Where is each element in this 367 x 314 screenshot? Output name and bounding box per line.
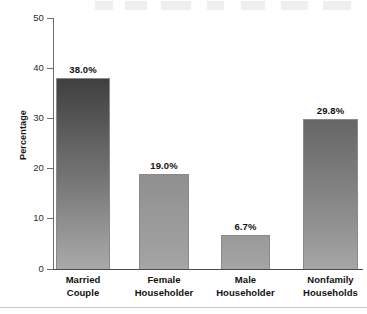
y-axis-tick-label: 20	[18, 162, 44, 173]
footer-rule	[0, 307, 367, 308]
bar-value-label: 19.0%	[134, 160, 194, 171]
y-axis-tick-label: 10	[18, 212, 44, 223]
bar-value-label: 6.7%	[216, 221, 276, 232]
bar-married-couple	[56, 78, 110, 269]
x-axis-category-label: MarriedCouple	[38, 274, 128, 299]
category-label-line: Householder	[119, 287, 209, 300]
y-axis-tick	[47, 269, 53, 270]
y-axis-tick	[47, 18, 53, 19]
y-axis-tick-label: 40	[18, 62, 44, 73]
x-axis-category-label: FemaleHouseholder	[119, 274, 209, 299]
category-label-line: Householder	[201, 287, 291, 300]
x-axis-category-label: MaleHouseholder	[201, 274, 291, 299]
category-label-line: Married	[38, 274, 128, 287]
scan-artifact	[95, 1, 360, 10]
bar-value-label: 38.0%	[53, 64, 113, 75]
y-axis-tick	[47, 218, 53, 219]
bar-female-householder	[139, 174, 189, 269]
category-label-line: Nonfamily	[286, 274, 367, 287]
y-axis-tick-label: 0	[18, 263, 44, 274]
y-axis-tick-label: 30	[18, 112, 44, 123]
bar-value-label: 29.8%	[301, 105, 361, 116]
x-axis-line	[48, 269, 363, 270]
category-label-line: Households	[286, 287, 367, 300]
y-axis-tick-label: 50	[18, 12, 44, 23]
y-axis-tick	[47, 118, 53, 119]
category-label-line: Couple	[38, 287, 128, 300]
bar-chart-figure: Percentage 01020304050 38.0%MarriedCoupl…	[0, 0, 367, 314]
category-label-line: Male	[201, 274, 291, 287]
x-axis-category-label: NonfamilyHouseholds	[286, 274, 367, 299]
y-axis-tick	[47, 168, 53, 169]
category-label-line: Female	[119, 274, 209, 287]
bar-nonfamily-households	[303, 119, 358, 269]
y-axis-line	[53, 18, 54, 270]
bar-male-householder	[221, 235, 270, 269]
